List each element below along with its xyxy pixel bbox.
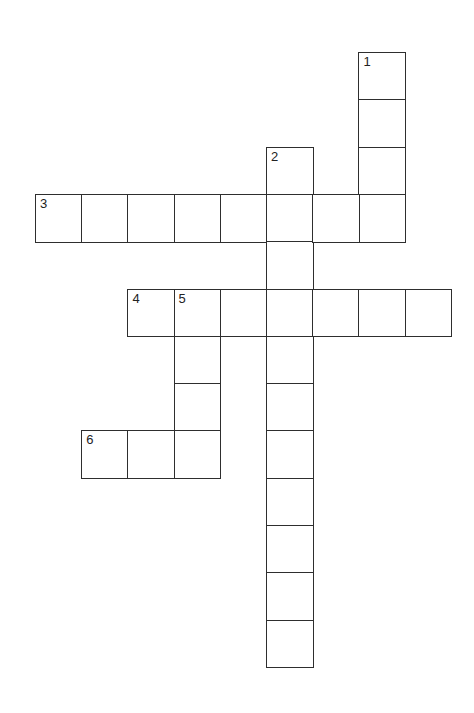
crossword-cell[interactable] xyxy=(220,289,268,338)
crossword-cell[interactable]: 3 xyxy=(35,194,83,243)
crossword-cell[interactable] xyxy=(127,194,175,243)
crossword-cell[interactable] xyxy=(266,430,314,479)
clue-number: 1 xyxy=(363,55,370,68)
crossword-cell[interactable] xyxy=(266,383,314,432)
crossword-cell[interactable] xyxy=(220,194,268,243)
crossword-cell[interactable]: 1 xyxy=(358,52,406,101)
crossword-cell[interactable] xyxy=(174,430,222,479)
crossword-cell[interactable] xyxy=(312,289,360,338)
crossword-cell[interactable] xyxy=(266,572,314,621)
clue-number: 3 xyxy=(40,197,47,210)
crossword-cell[interactable] xyxy=(266,620,314,669)
crossword-cell[interactable] xyxy=(358,289,406,338)
crossword-cell[interactable] xyxy=(358,194,406,243)
crossword-cell[interactable]: 5 xyxy=(174,289,222,338)
crossword-cell[interactable]: 4 xyxy=(127,289,175,338)
clue-number: 5 xyxy=(179,292,186,305)
clue-number: 6 xyxy=(86,433,93,446)
crossword-cell[interactable] xyxy=(358,147,406,196)
crossword-cell[interactable] xyxy=(266,241,314,290)
clue-number: 4 xyxy=(132,292,139,305)
crossword-cell[interactable] xyxy=(174,336,222,385)
crossword-cell[interactable] xyxy=(266,194,314,243)
crossword-cell[interactable] xyxy=(81,194,129,243)
crossword-cell[interactable] xyxy=(174,194,222,243)
crossword-cell[interactable] xyxy=(312,194,360,243)
crossword-cell[interactable] xyxy=(174,383,222,432)
crossword-grid: 123456 xyxy=(0,0,474,713)
clue-number: 2 xyxy=(271,150,278,163)
crossword-cell[interactable] xyxy=(358,99,406,148)
crossword-cell[interactable] xyxy=(405,289,453,338)
crossword-cell[interactable] xyxy=(266,289,314,338)
crossword-cell[interactable]: 6 xyxy=(81,430,129,479)
crossword-cell[interactable] xyxy=(266,478,314,527)
crossword-cell[interactable] xyxy=(266,525,314,574)
crossword-cell[interactable] xyxy=(266,336,314,385)
crossword-cell[interactable]: 2 xyxy=(266,147,314,196)
crossword-cell[interactable] xyxy=(127,430,175,479)
